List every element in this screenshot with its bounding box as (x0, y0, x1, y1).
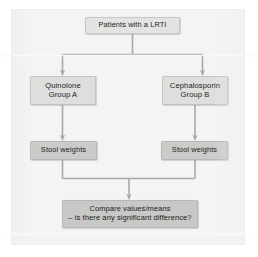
node-cephalosporin-group-b: Cephalosporin Group B (162, 76, 228, 105)
node-patients-line-1: Patients with a LRTI (99, 21, 167, 30)
node-stool-weights-right: Stool weights (161, 141, 228, 160)
node-stool-weights-left-label: Stool weights (41, 146, 86, 155)
node-compare-values: Compare values/means – is there any sign… (62, 200, 198, 228)
node-stool-weights-right-label: Stool weights (172, 146, 217, 155)
node-stool-weights-left: Stool weights (30, 141, 97, 160)
node-cephalosporin-line-2: Group B (181, 91, 210, 100)
node-quinolone-group-a: Quinolone Group A (30, 76, 96, 105)
flowchart-figure: Patients with a LRTI Quinolone Group A C… (0, 0, 258, 257)
node-patients-with-lrti: Patients with a LRTI (85, 17, 180, 34)
node-compare-line-2: – is there any significant difference? (68, 214, 191, 223)
node-quinolone-line-2: Group A (49, 91, 78, 100)
